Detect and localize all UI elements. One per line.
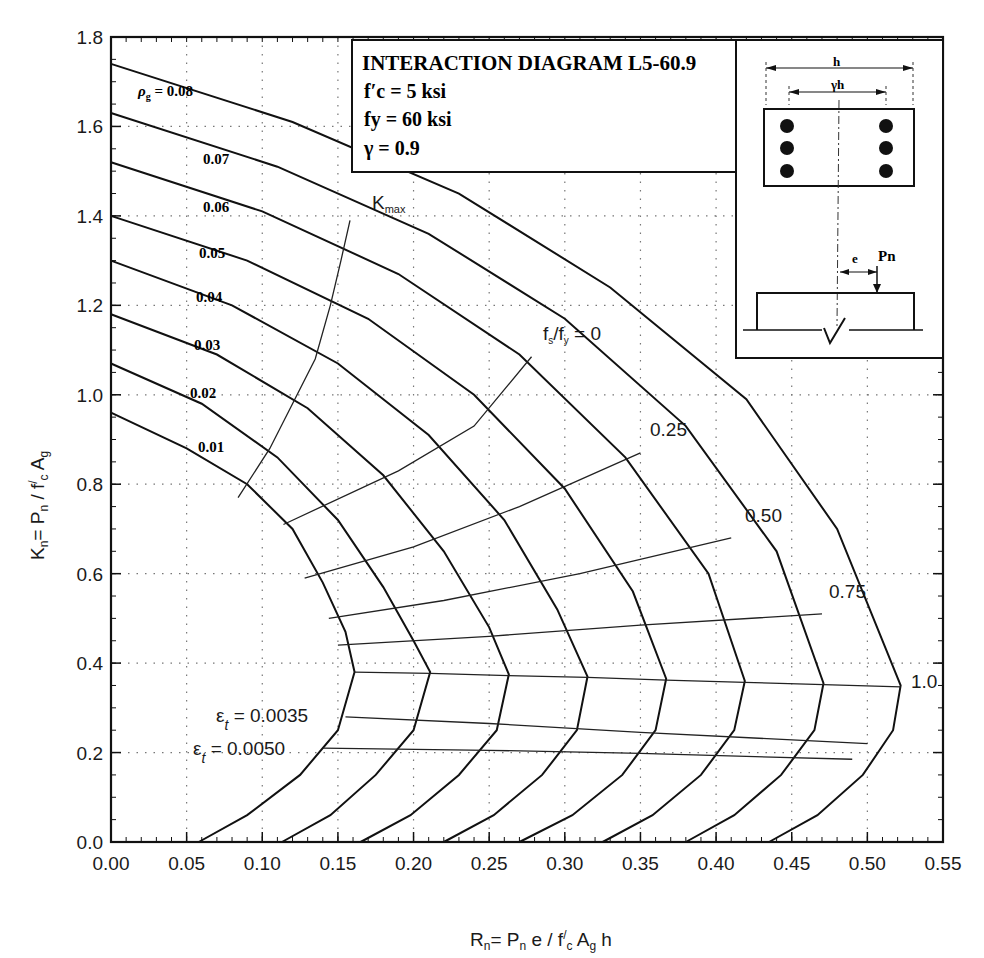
x-tick-label: 0.30 [546, 853, 583, 874]
y-axis-label: Kn= Pn / f/c Ag [26, 451, 51, 560]
strain-label: εt = 0.0035 [216, 705, 308, 733]
y-tick-label: 1.0 [77, 385, 103, 406]
fs-fy-label: 0.75 [829, 581, 866, 602]
reference-line [323, 748, 852, 759]
reference-line [338, 614, 822, 645]
inset-gamma-h-label: γh [830, 77, 845, 92]
y-tick-label: 0.6 [77, 564, 103, 585]
y-tick-label: 0.0 [77, 832, 103, 853]
x-tick-label: 0.25 [471, 853, 508, 874]
reference-line [345, 717, 867, 744]
rho-label: 0.02 [190, 385, 216, 401]
legend-gamma: γ = 0.9 [363, 137, 420, 160]
rho-label: 0.01 [198, 439, 224, 455]
rho-label: 0.04 [196, 289, 223, 305]
reference-line [355, 672, 901, 687]
x-tick-label: 0.35 [622, 853, 659, 874]
x-tick-label: 0.40 [698, 853, 735, 874]
legend-title: INTERACTION DIAGRAM L5-60.9 [362, 51, 696, 75]
y-tick-label: 0.4 [77, 653, 104, 674]
x-tick-label: 0.55 [925, 853, 962, 874]
rho-label: ρg = 0.08 [137, 83, 193, 102]
inset-e-label: e [852, 251, 858, 266]
x-tick-label: 0.10 [244, 853, 281, 874]
y-tick-label: 1.6 [77, 116, 103, 137]
fs-fy-zero-label: fs/fy = 0 [543, 323, 601, 346]
y-tick-label: 0.2 [77, 743, 103, 764]
reference-line [283, 357, 531, 525]
strain-label: εt = 0.0050 [193, 738, 285, 766]
rho-curve [111, 261, 588, 842]
reference-line [238, 220, 350, 497]
x-tick-label: 0.00 [93, 853, 130, 874]
x-tick-label: 0.15 [319, 853, 356, 874]
legend-box: INTERACTION DIAGRAM L5-60.9 f′c = 5 ksi … [352, 40, 736, 172]
rho-label: 0.06 [203, 199, 230, 215]
inset-h-label: h [833, 54, 841, 69]
x-tick-label: 0.20 [395, 853, 432, 874]
section-inset: h γh e Pn [736, 40, 943, 358]
y-tick-label: 0.8 [77, 474, 103, 495]
legend-fy: fy = 60 ksi [364, 108, 452, 131]
fs-fy-label: 0.25 [650, 419, 687, 440]
fs-fy-label: 0.50 [745, 505, 782, 526]
rho-curve [111, 413, 355, 842]
rho-label: 0.03 [194, 337, 220, 353]
y-tick-label: 1.2 [77, 295, 103, 316]
kmax-label: Kmax [372, 192, 406, 215]
fs-fy-label: 1.0 [911, 671, 937, 692]
y-tick-label: 1.4 [77, 206, 104, 227]
x-tick-label: 0.05 [168, 853, 205, 874]
reference-line [329, 538, 731, 619]
rho-label: 0.05 [199, 245, 225, 261]
rho-label: 0.07 [203, 151, 230, 167]
inset-pn-label: Pn [878, 248, 896, 264]
interaction-diagram-chart: 0.000.050.100.150.200.250.300.350.400.45… [0, 0, 984, 958]
x-axis-label: Rn= Pn e / f/c Ag h [470, 928, 612, 953]
x-tick-label: 0.45 [773, 853, 810, 874]
reference-line [305, 453, 641, 578]
legend-fc: f′c = 5 ksi [364, 80, 446, 102]
y-tick-label: 1.8 [77, 27, 103, 48]
x-tick-label: 0.50 [849, 853, 886, 874]
